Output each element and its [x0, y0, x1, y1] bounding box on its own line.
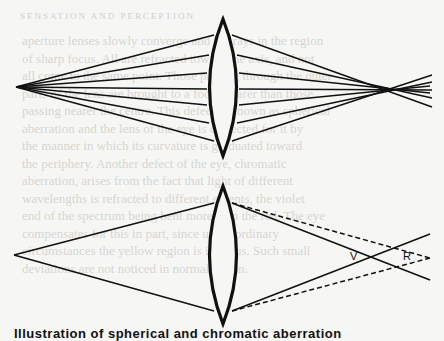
- chromatic-aberration-diagram: [14, 186, 430, 324]
- red-ray-lower: [232, 258, 430, 311]
- spherical-aberration-diagram: [16, 19, 432, 156]
- violet-ray-upper: [232, 203, 430, 280]
- incoming-ray-lower: [14, 255, 214, 311]
- violet-focus-label: V: [350, 250, 357, 262]
- violet-ray-lower: [232, 234, 430, 311]
- figure-caption: Illustration of spherical and chromatic …: [14, 326, 342, 341]
- convex-lens-top: [210, 19, 237, 156]
- red-ray-upper: [232, 203, 430, 258]
- incoming-ray-upper: [14, 203, 214, 255]
- convex-lens-bottom: [210, 186, 237, 324]
- outgoing-rays: [232, 35, 432, 141]
- incoming-rays: [16, 35, 214, 141]
- red-focus-label: R: [403, 250, 411, 262]
